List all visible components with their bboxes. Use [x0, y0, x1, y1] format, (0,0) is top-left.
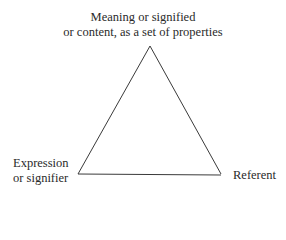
edge-meaning-referent: [150, 46, 221, 174]
node-label-expression-line-2: or signifier: [13, 171, 69, 186]
node-label-expression-line-1: Expression: [13, 156, 69, 171]
node-label-referent: Referent: [233, 168, 276, 183]
edge-expression-referent: [78, 174, 221, 175]
node-label-expression: Expression or signifier: [13, 156, 69, 186]
edge-meaning-expression: [78, 46, 150, 174]
node-label-referent-line-1: Referent: [233, 168, 276, 183]
